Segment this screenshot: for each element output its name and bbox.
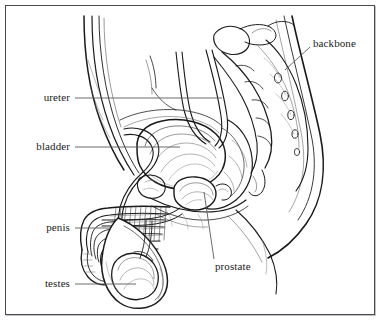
backbone-sacrum [214, 21, 308, 195]
back-body-contour [268, 16, 323, 258]
label-bladder: bladder [10, 140, 70, 152]
buttock-contour [228, 210, 277, 294]
scrotum-testes [102, 218, 168, 308]
label-ureter: ureter [18, 91, 70, 103]
label-testes: testes [14, 277, 70, 289]
bladder-organ [137, 120, 225, 189]
abdominal-wall-contour [84, 16, 139, 175]
anatomy-figure: ureter bladder penis testes backbone pro… [0, 0, 381, 321]
label-prostate: prostate [215, 260, 251, 272]
prostate-organ [174, 177, 231, 210]
label-penis: penis [18, 221, 70, 233]
leader-backbone [285, 47, 310, 70]
label-backbone: backbone [313, 37, 356, 49]
